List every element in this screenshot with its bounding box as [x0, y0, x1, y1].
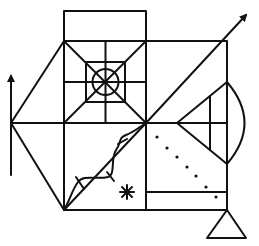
- center-cross: [11, 41, 227, 210]
- bottom-triangle: [207, 210, 246, 238]
- left-triangle: [11, 41, 64, 210]
- complex-figure: [0, 0, 259, 246]
- dotted-diagonal: [155, 135, 217, 198]
- right-diagonal-arrow: [64, 15, 246, 210]
- top-box: [64, 11, 146, 41]
- asterisk: [120, 185, 134, 199]
